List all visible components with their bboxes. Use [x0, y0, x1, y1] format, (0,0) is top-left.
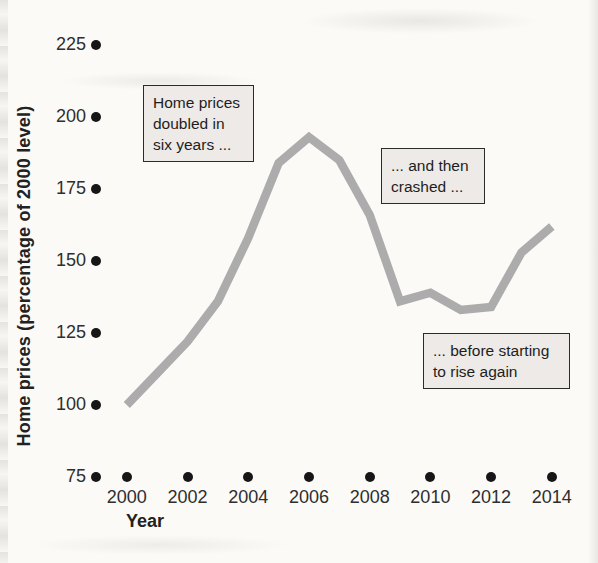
x-axis-title: Year — [126, 511, 164, 532]
y-tick-dot — [91, 472, 101, 482]
x-tick-label: 2000 — [96, 487, 158, 508]
x-tick-label: 2004 — [217, 487, 279, 508]
y-tick-dot — [91, 256, 101, 266]
y-tick-label: 150 — [38, 250, 86, 271]
y-tick-dot — [91, 40, 101, 50]
x-tick-label: 2002 — [157, 487, 219, 508]
y-tick-dot — [91, 328, 101, 338]
x-tick-label: 2008 — [339, 487, 401, 508]
y-tick-label: 125 — [38, 322, 86, 343]
annotation-before-starting-to-rise: ... before starting to rise again — [423, 333, 570, 389]
x-tick-label: 2006 — [278, 487, 340, 508]
y-axis-title: Home prices (percentage of 2000 level) — [14, 106, 35, 447]
y-tick-label: 225 — [38, 34, 86, 55]
x-tick-dot — [183, 472, 193, 482]
annotation-doubled-in-six-years: Home prices doubled in six years ... — [143, 85, 254, 162]
y-tick-dot — [91, 400, 101, 410]
x-tick-label: 2010 — [399, 487, 461, 508]
annotation-and-then-crashed: ... and then crashed ... — [381, 148, 485, 204]
scanned-textbook-figure: Home prices (percentage of 2000 level) 2… — [0, 0, 598, 563]
y-tick-label: 75 — [38, 466, 86, 487]
y-tick-label: 175 — [38, 178, 86, 199]
x-tick-label: 2012 — [460, 487, 522, 508]
y-tick-dot — [91, 184, 101, 194]
y-tick-label: 100 — [38, 394, 86, 415]
x-tick-label: 2014 — [521, 487, 583, 508]
x-tick-dot — [122, 472, 132, 482]
x-tick-dot — [547, 472, 557, 482]
plot-area — [0, 0, 598, 563]
x-tick-dot — [304, 472, 314, 482]
y-tick-label: 200 — [38, 106, 86, 127]
y-tick-dot — [91, 112, 101, 122]
x-tick-dot — [365, 472, 375, 482]
